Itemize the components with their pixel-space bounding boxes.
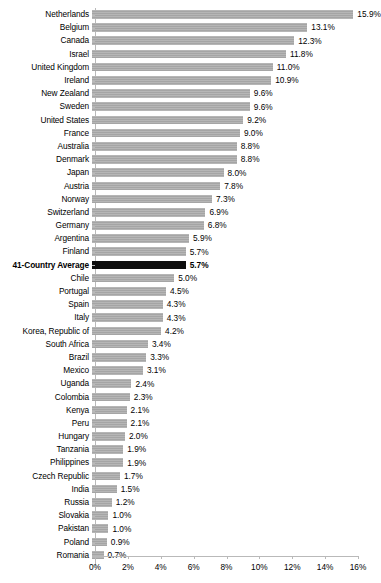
bar-value-label: 9.0% bbox=[244, 128, 263, 138]
bar-value-label: 5.7% bbox=[190, 247, 209, 257]
bar bbox=[92, 261, 186, 270]
bar-value-label: 1.7% bbox=[124, 471, 143, 481]
y-axis-tick bbox=[92, 463, 95, 464]
y-axis-tick bbox=[92, 160, 95, 161]
bar-zone: 2.0% bbox=[92, 430, 378, 443]
bar bbox=[92, 129, 240, 138]
bar bbox=[92, 63, 273, 72]
x-axis-tick-label: 4% bbox=[155, 562, 167, 573]
chart-row: South Africa3.4% bbox=[0, 338, 378, 351]
chart-row: Australia8.8% bbox=[0, 140, 378, 153]
bar-value-label: 12.3% bbox=[298, 36, 322, 46]
category-label: New Zealand bbox=[0, 89, 92, 98]
bar bbox=[92, 195, 212, 204]
bar-zone: 2.3% bbox=[92, 390, 378, 403]
bar-zone: 7.8% bbox=[92, 179, 378, 192]
bar bbox=[92, 327, 161, 336]
category-label: Poland bbox=[0, 538, 92, 547]
bar-value-label: 1.0% bbox=[112, 524, 131, 534]
category-label: United Kingdom bbox=[0, 63, 92, 72]
bar-value-label: 1.9% bbox=[127, 458, 146, 468]
bar-value-label: 0.9% bbox=[111, 537, 130, 547]
bar-zone: 4.3% bbox=[92, 311, 378, 324]
x-axis-tick bbox=[161, 556, 162, 559]
bar-zone: 0.9% bbox=[92, 536, 378, 549]
bar bbox=[92, 445, 123, 454]
chart-row: Peru2.1% bbox=[0, 417, 378, 430]
x-axis-tick bbox=[259, 556, 260, 559]
bar bbox=[92, 432, 125, 441]
chart-row: Philippines1.9% bbox=[0, 456, 378, 469]
bar bbox=[92, 76, 271, 85]
y-axis-tick bbox=[92, 265, 95, 266]
chart-row: Sweden9.6% bbox=[0, 100, 378, 113]
bar-zone: 9.0% bbox=[92, 127, 378, 140]
bar-value-label: 15.9% bbox=[357, 9, 381, 19]
y-axis-tick bbox=[92, 213, 95, 214]
bar-value-label: 1.9% bbox=[127, 444, 146, 454]
chart-row: Tanzania1.9% bbox=[0, 443, 378, 456]
x-axis-tick-label: 8% bbox=[221, 562, 233, 573]
chart-row: Canada12.3% bbox=[0, 34, 378, 47]
bar-zone: 5.9% bbox=[92, 232, 378, 245]
bar-value-label: 4.3% bbox=[167, 313, 186, 323]
bar-value-label: 5.7% bbox=[190, 260, 209, 270]
x-axis-tick bbox=[227, 556, 228, 559]
chart-row: Pakistan1.0% bbox=[0, 522, 378, 535]
category-label: Korea, Republic of bbox=[0, 327, 92, 336]
y-axis-tick bbox=[92, 543, 95, 544]
category-label: Argentina bbox=[0, 234, 92, 243]
chart-row: India1.5% bbox=[0, 483, 378, 496]
bar-zone: 8.8% bbox=[92, 153, 378, 166]
bar-zone: 3.3% bbox=[92, 351, 378, 364]
y-axis-tick bbox=[92, 556, 95, 557]
chart-row: Israel11.8% bbox=[0, 48, 378, 61]
bar-value-label: 7.3% bbox=[216, 194, 235, 204]
category-label: Norway bbox=[0, 195, 92, 204]
bar-zone: 4.2% bbox=[92, 325, 378, 338]
bar bbox=[92, 155, 237, 164]
bar-zone: 5.0% bbox=[92, 272, 378, 285]
bar bbox=[92, 142, 237, 151]
chart-row: Austria7.8% bbox=[0, 179, 378, 192]
bar bbox=[92, 10, 353, 19]
bar-value-label: 4.3% bbox=[167, 299, 186, 309]
category-label: 41-Country Average bbox=[0, 261, 92, 270]
category-label: Mexico bbox=[0, 366, 92, 375]
bar-zone: 6.8% bbox=[92, 219, 378, 232]
category-label: Hungary bbox=[0, 432, 92, 441]
bar-zone: 2.4% bbox=[92, 377, 378, 390]
bar-value-label: 3.3% bbox=[150, 352, 169, 362]
x-axis-tick bbox=[292, 556, 293, 559]
y-axis-tick bbox=[92, 437, 95, 438]
bar-zone: 5.7% bbox=[92, 259, 378, 272]
category-label: Finland bbox=[0, 247, 92, 256]
bar bbox=[92, 313, 163, 322]
bar bbox=[92, 102, 250, 111]
y-axis-tick bbox=[92, 279, 95, 280]
category-label: Czech Republic bbox=[0, 472, 92, 481]
bar-zone: 15.9% bbox=[92, 8, 378, 21]
category-label: Netherlands bbox=[0, 10, 92, 19]
chart-row: Chile5.0% bbox=[0, 272, 378, 285]
bar bbox=[92, 168, 224, 177]
bar-zone: 13.1% bbox=[92, 21, 378, 34]
category-label: Peru bbox=[0, 419, 92, 428]
chart-rows: Netherlands15.9%Belgium13.1%Canada12.3%I… bbox=[0, 8, 378, 562]
y-axis-tick bbox=[92, 529, 95, 530]
y-axis-tick bbox=[92, 226, 95, 227]
bar-value-label: 5.0% bbox=[178, 273, 197, 283]
chart-row-highlight: 41-Country Average5.7% bbox=[0, 259, 378, 272]
category-label: Portugal bbox=[0, 287, 92, 296]
category-label: United States bbox=[0, 116, 92, 125]
chart-row: Germany6.8% bbox=[0, 219, 378, 232]
bar-zone: 11.8% bbox=[92, 48, 378, 61]
chart-row: Hungary2.0% bbox=[0, 430, 378, 443]
chart-row: Switzerland6.9% bbox=[0, 206, 378, 219]
x-axis-tick bbox=[128, 556, 129, 559]
bar-value-label: 8.0% bbox=[228, 168, 247, 178]
y-axis-tick bbox=[92, 120, 95, 121]
bar-value-label: 5.9% bbox=[193, 233, 212, 243]
bar-value-label: 13.1% bbox=[311, 22, 335, 32]
